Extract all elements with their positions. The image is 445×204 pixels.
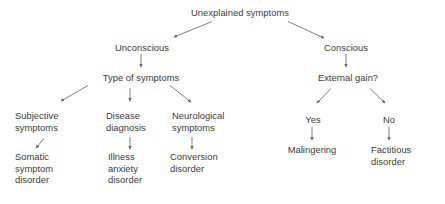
edge-root-to-conscious [288,22,324,39]
node-factitious-disorder: Factitious disorder [371,144,411,167]
node-no: No [383,114,395,126]
edge-type-to-neurological [170,86,191,103]
arrow-layer [0,0,445,204]
edge-type-to-subjective [61,86,88,102]
node-unexplained-symptoms: Unexplained symptoms [191,7,289,19]
node-malingering: Malingering [288,144,337,156]
edge-root-to-unconscious [174,22,212,38]
node-yes: Yes [305,114,320,126]
node-type-of-symptoms: Type of symptoms [103,72,179,84]
node-disease-diagnosis: Disease diagnosis [106,110,146,133]
flowchart-canvas: Unexplained symptoms Unconscious Conscio… [0,0,445,204]
edge-subjective-to-somatic [36,139,44,149]
node-neurological-symptoms: Neurological symptoms [172,110,224,133]
node-external-gain: External gain? [318,72,378,84]
node-subjective-symptoms: Subjective symptoms [15,110,58,133]
node-somatic-symptom-disorder: Somatic symptom disorder [15,151,53,186]
node-conversion-disorder: Conversion disorder [170,151,218,174]
node-illness-anxiety-disorder: Illness anxiety disorder [108,151,142,186]
node-unconscious: Unconscious [115,42,169,54]
node-conscious: Conscious [324,42,368,54]
edge-external-gain-to-yes [317,89,331,104]
edge-external-gain-to-no [370,89,385,104]
